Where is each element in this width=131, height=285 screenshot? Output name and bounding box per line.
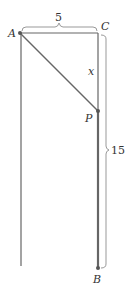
point-B bbox=[96, 266, 100, 270]
segment-AP bbox=[20, 33, 98, 111]
right-brace bbox=[101, 35, 109, 268]
geometry-diagram: A C P B x 5 15 bbox=[0, 0, 131, 285]
point-A bbox=[18, 31, 22, 35]
point-P bbox=[96, 109, 100, 113]
label-x: x bbox=[88, 65, 95, 78]
label-top-dimension: 5 bbox=[55, 11, 62, 24]
label-C: C bbox=[101, 20, 110, 33]
label-A: A bbox=[7, 27, 16, 40]
top-brace bbox=[22, 23, 97, 31]
label-P: P bbox=[84, 112, 93, 125]
label-side-dimension: 15 bbox=[111, 144, 125, 157]
label-B: B bbox=[92, 273, 101, 285]
